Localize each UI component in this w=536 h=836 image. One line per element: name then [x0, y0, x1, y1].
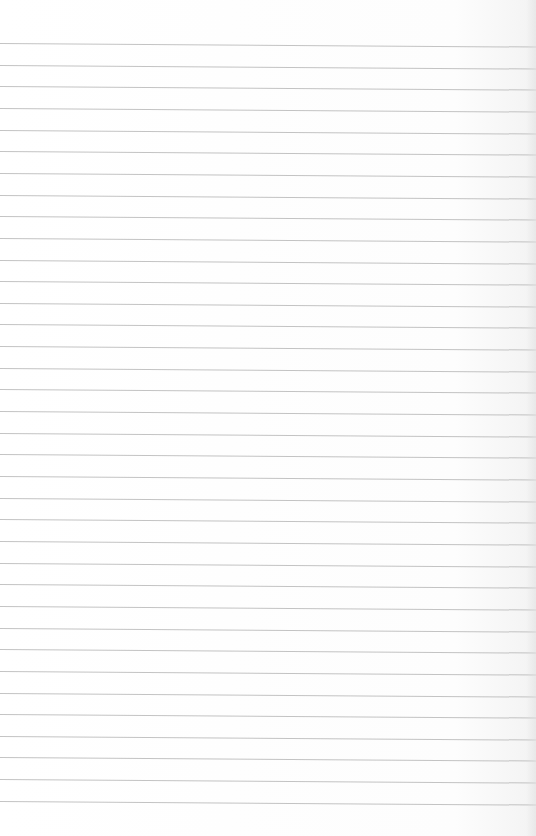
ruled-line	[0, 346, 536, 351]
ruled-line	[0, 151, 536, 156]
ruled-line	[0, 281, 536, 286]
ruled-line	[0, 130, 536, 135]
ruled-line	[0, 519, 536, 524]
ruled-line	[0, 541, 536, 546]
ruled-line	[0, 260, 536, 265]
ruled-line	[0, 714, 536, 719]
ruled-line	[0, 65, 536, 70]
ruled-line	[0, 476, 536, 481]
ruled-line	[0, 757, 536, 762]
ruled-line	[0, 498, 536, 503]
lined-paper-sheet	[0, 0, 536, 836]
ruled-line	[0, 324, 536, 329]
ruled-line	[0, 108, 536, 113]
ruled-line	[0, 86, 536, 91]
ruled-line	[0, 433, 536, 438]
ruled-lines	[0, 0, 536, 836]
paper-edge-shadow	[526, 0, 536, 836]
ruled-line	[0, 628, 536, 633]
ruled-line	[0, 649, 536, 654]
ruled-line	[0, 411, 536, 416]
ruled-line	[0, 173, 536, 178]
ruled-line	[0, 563, 536, 568]
ruled-line	[0, 238, 536, 243]
ruled-line	[0, 389, 536, 394]
ruled-line	[0, 584, 536, 589]
ruled-line	[0, 736, 536, 741]
ruled-line	[0, 671, 536, 676]
ruled-line	[0, 779, 536, 784]
ruled-line	[0, 216, 536, 221]
ruled-line	[0, 368, 536, 373]
ruled-line	[0, 801, 536, 806]
ruled-line	[0, 43, 536, 48]
ruled-line	[0, 693, 536, 698]
ruled-line	[0, 454, 536, 459]
ruled-line	[0, 606, 536, 611]
ruled-line	[0, 195, 536, 200]
ruled-line	[0, 303, 536, 308]
